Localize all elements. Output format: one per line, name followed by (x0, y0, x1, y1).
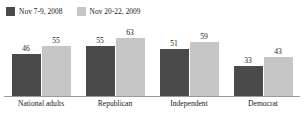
plot-area: 46 55 55 63 51 (0, 22, 304, 97)
x-axis-baseline (4, 96, 300, 97)
category-label-independent: Independent (154, 99, 224, 109)
bar-republican-2008: 55 (86, 22, 115, 96)
bar-republican-2009: 63 (116, 22, 145, 96)
bar-value: 63 (126, 28, 134, 37)
bar-group-democrat: 33 43 (228, 22, 298, 96)
chart-legend: Nov 7-9, 2008 Nov 20-22, 2009 (6, 5, 141, 17)
bar-rect (234, 66, 263, 96)
bar-value: 59 (200, 32, 208, 41)
bar-rect (116, 38, 145, 96)
bar-chart: Nov 7-9, 2008 Nov 20-22, 2009 46 55 55 (0, 0, 304, 115)
legend-entry-2009: Nov 20-22, 2009 (77, 7, 141, 16)
bar-independent-2009: 59 (190, 22, 219, 96)
bar-rect (160, 49, 189, 96)
category-label-national-adults: National adults (6, 99, 76, 109)
legend-label-2009: Nov 20-22, 2009 (90, 7, 141, 16)
bar-group-republican: 55 63 (80, 22, 150, 96)
bar-rect (12, 54, 41, 96)
bar-group-independent: 51 59 (154, 22, 224, 96)
legend-entry-2008: Nov 7-9, 2008 (6, 7, 63, 16)
bar-group-national-adults: 46 55 (6, 22, 76, 96)
bar-value: 33 (244, 56, 252, 65)
bar-value: 43 (274, 47, 282, 56)
bar-rect (190, 42, 219, 96)
bar-value: 55 (96, 36, 104, 45)
legend-swatch-2009 (77, 7, 86, 16)
bar-independent-2008: 51 (160, 22, 189, 96)
category-labels: National adults Republican Independent D… (4, 99, 300, 109)
bar-national-adults-2008: 46 (12, 22, 41, 96)
bar-rect (86, 46, 115, 96)
bar-national-adults-2009: 55 (42, 22, 71, 96)
bar-value: 55 (52, 36, 60, 45)
bar-democrat-2009: 43 (264, 22, 293, 96)
bar-groups: 46 55 55 63 51 (4, 22, 300, 96)
legend-label-2008: Nov 7-9, 2008 (19, 7, 63, 16)
legend-swatch-2008 (6, 7, 15, 16)
bar-democrat-2008: 33 (234, 22, 263, 96)
category-label-democrat: Democrat (228, 99, 298, 109)
bar-rect (42, 46, 71, 96)
category-label-republican: Republican (80, 99, 150, 109)
bar-rect (264, 57, 293, 96)
bar-value: 46 (22, 44, 30, 53)
bar-value: 51 (170, 39, 178, 48)
